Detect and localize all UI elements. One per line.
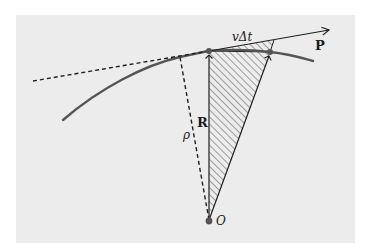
label-P: P <box>315 38 325 53</box>
label-rho: ρ <box>182 128 190 142</box>
origin-point <box>206 218 213 225</box>
particle-point-initial <box>206 48 212 54</box>
label-O: O <box>216 214 226 228</box>
particle-point-later <box>267 49 273 55</box>
label-v-delta-t: vΔt <box>232 30 252 44</box>
diagram-figure: vΔt P R ρ O <box>0 0 370 252</box>
label-R: R <box>197 115 208 130</box>
